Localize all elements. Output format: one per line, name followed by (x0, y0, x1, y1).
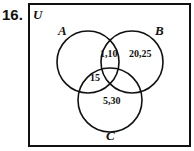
universe-rectangle (29, 4, 190, 146)
venn-diagram: U A B C 1,10 20,25 15 5,30 (0, 0, 194, 151)
set-c-label: C (106, 128, 115, 143)
region-a-and-b: 1,10 (100, 48, 118, 59)
universe-label: U (33, 7, 43, 22)
region-b-only: 20,25 (129, 48, 152, 59)
region-c-only: 5,30 (103, 95, 121, 106)
circle-b (101, 31, 163, 93)
region-a-and-c: 15 (90, 72, 100, 83)
set-b-label: B (154, 23, 164, 38)
set-a-label: A (57, 23, 67, 38)
